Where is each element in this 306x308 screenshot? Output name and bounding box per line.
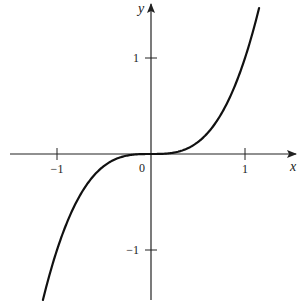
y-axis-label: y [136,1,145,16]
y-tick-label-pos1: 1 [133,51,139,65]
origin-label: 0 [139,161,145,175]
y-tick-label-neg1: −1 [126,243,139,257]
chart: −1 0 1 1 −1 x y [0,0,306,308]
x-tick-label-pos1: 1 [242,162,248,176]
x-axis-label: x [289,159,297,174]
x-tick-label-neg1: −1 [51,162,64,176]
